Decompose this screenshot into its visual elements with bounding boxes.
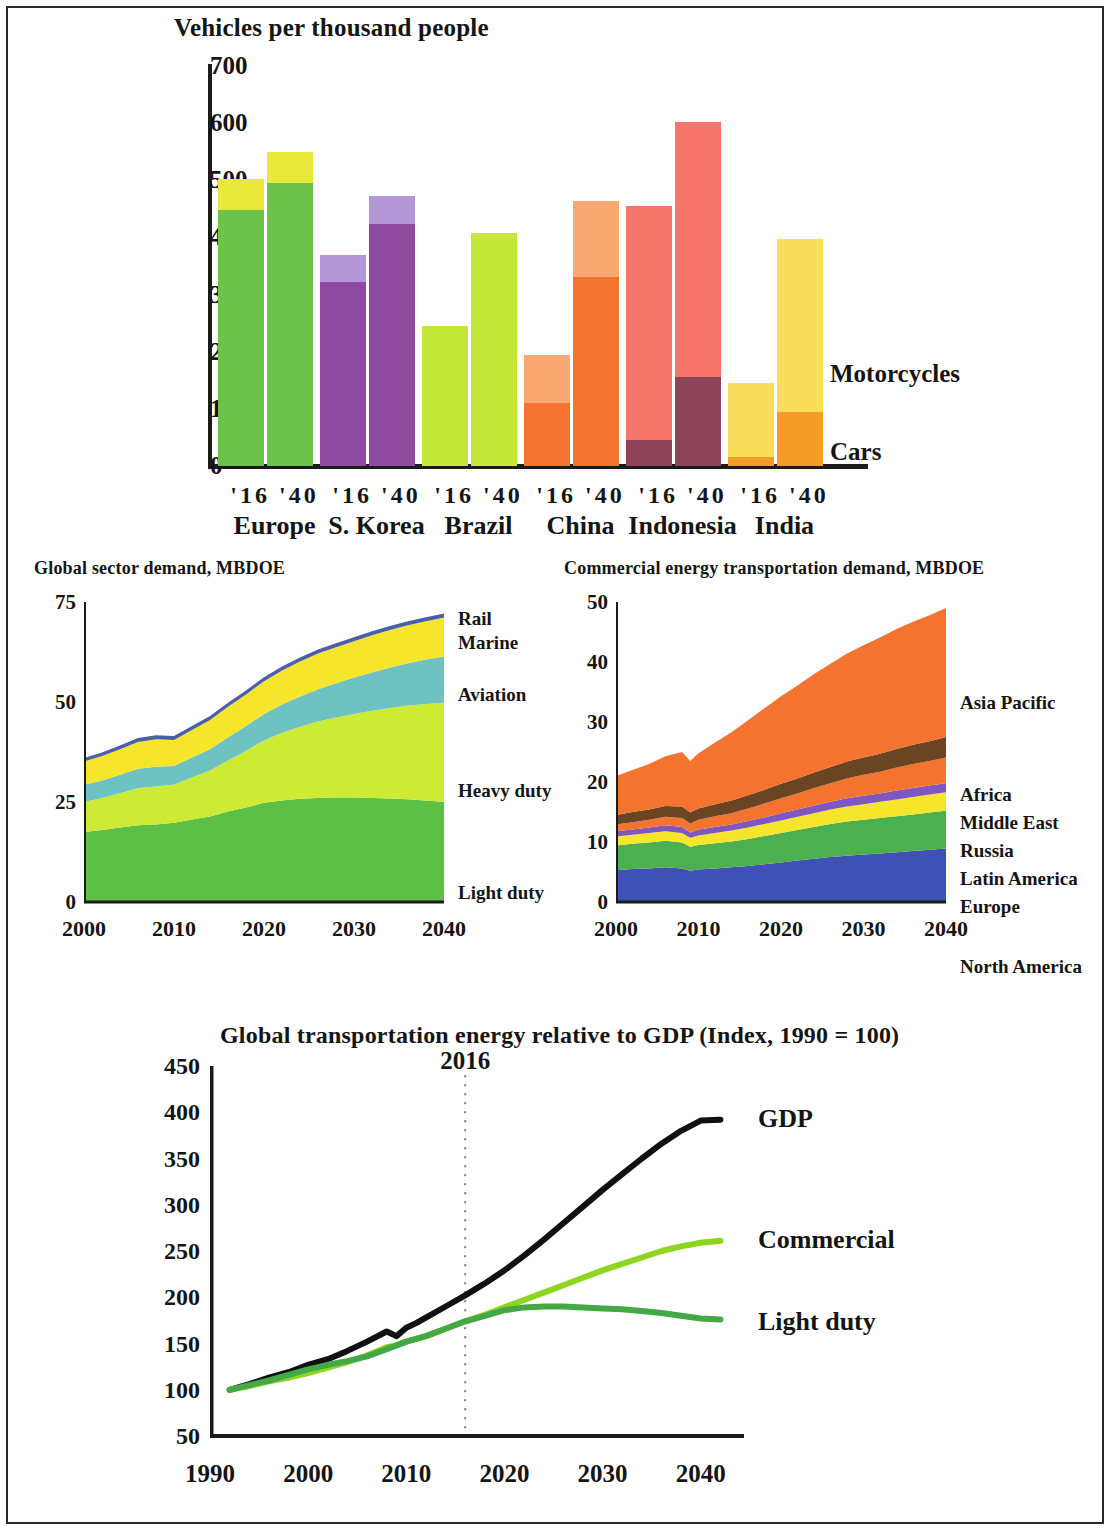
line-chart-title: Global transportation energy relative to… [220, 1022, 899, 1049]
bar-segment-motorcycles [524, 355, 570, 404]
bar-segment-cars [369, 224, 415, 466]
bar[interactable] [777, 239, 823, 466]
bar[interactable] [675, 122, 721, 466]
area-x-tick: 2020 [759, 916, 803, 942]
x-category-brazil: '16 '40Brazil [424, 482, 533, 541]
x-category-india: '16 '40India [730, 482, 839, 541]
line-y-tick: 250 [130, 1238, 200, 1265]
x-category-china: '16 '40China [526, 482, 635, 541]
bar-segment-motorcycles [675, 122, 721, 377]
bar-segment-cars [524, 403, 570, 466]
bar[interactable] [626, 206, 672, 466]
area-y-tick: 50 [568, 590, 608, 615]
legend-item-aviation: Aviation [458, 684, 526, 706]
bar[interactable] [573, 201, 619, 466]
x-year-labels: '16 '40 [628, 482, 737, 509]
legend-item-europe: Europe [960, 896, 1020, 918]
bar-segment-cars [675, 377, 721, 466]
bar-segment-motorcycles [626, 206, 672, 440]
area-x-tick: 2040 [422, 916, 466, 942]
bar[interactable] [524, 355, 570, 466]
bar-group-skorea [320, 66, 415, 466]
area-y-tick: 50 [28, 690, 76, 715]
line-y-tick: 50 [130, 1423, 200, 1450]
bar[interactable] [471, 233, 517, 466]
legend-item-heavy-duty: Heavy duty [458, 780, 551, 802]
vehicles-bar-chart: Vehicles per thousand people 01002003004… [150, 14, 1000, 554]
legend-item-motorcycles: Motorcycles [830, 360, 960, 388]
global-sector-demand-chart: Global sector demand, MBDOE 0255075 2000… [18, 558, 558, 988]
line-y-tick: 200 [130, 1284, 200, 1311]
bar-group-indonesia [626, 66, 721, 466]
area-x-tick: 2010 [152, 916, 196, 942]
bar-segment-motorcycles [267, 152, 313, 183]
x-year-labels: '16 '40 [526, 482, 635, 509]
area1-title: Global sector demand, MBDOE [34, 558, 285, 579]
line-x-tick: 2040 [676, 1460, 726, 1488]
commercial-energy-transportation-demand-chart: Commercial energy transportation demand,… [560, 558, 1108, 988]
x-category-indonesia: '16 '40Indonesia [628, 482, 737, 541]
area-y-tick: 0 [568, 890, 608, 915]
bar-segment-cars [267, 183, 313, 466]
area-x-tick: 2020 [242, 916, 286, 942]
legend-item-gdp: GDP [758, 1104, 813, 1134]
x-region-label: S. Korea [322, 511, 431, 541]
bar-chart-plot-area: 0100200300400500600700 [210, 66, 840, 466]
area1-plot-area [84, 602, 444, 902]
line-x-tick: 2020 [479, 1460, 529, 1488]
line-y-tick: 450 [130, 1053, 200, 1080]
line-svg [210, 1066, 746, 1442]
bar-segment-motorcycles [320, 255, 366, 282]
x-category-europe: '16 '40Europe [220, 482, 329, 541]
line-x-tick: 2010 [381, 1460, 431, 1488]
bar-group-india [728, 66, 823, 466]
area-svg [616, 602, 946, 906]
x-region-label: Indonesia [628, 511, 737, 541]
legend-item-light-duty: Light duty [458, 882, 544, 904]
area2-plot-area [616, 602, 946, 902]
bar-segment-motorcycles [777, 239, 823, 412]
x-year-labels: '16 '40 [730, 482, 839, 509]
bar-segment-cars [320, 282, 366, 466]
legend-item-commercial: Commercial [758, 1225, 895, 1255]
year-2016-annotation: 2016 [440, 1047, 490, 1075]
legend-item-asia-pacific: Asia Pacific [960, 692, 1056, 714]
bar-group-brazil [422, 66, 517, 466]
legend-item-light-duty: Light duty [758, 1307, 876, 1337]
area-x-tick: 2030 [332, 916, 376, 942]
legend-item-rail: Rail [458, 608, 492, 630]
bar-segment-cars [471, 233, 517, 466]
line-x-tick: 2030 [578, 1460, 628, 1488]
bar-segment-motorcycles [573, 201, 619, 277]
bar-segment-motorcycles [369, 196, 415, 223]
bar[interactable] [369, 196, 415, 466]
legend-item-cars: Cars [830, 438, 881, 466]
bar[interactable] [728, 383, 774, 466]
x-year-labels: '16 '40 [220, 482, 329, 509]
line-y-tick: 400 [130, 1099, 200, 1126]
area-y-tick: 25 [28, 790, 76, 815]
x-category-skorea: '16 '40S. Korea [322, 482, 431, 541]
x-year-labels: '16 '40 [322, 482, 431, 509]
x-region-label: India [730, 511, 839, 541]
bar[interactable] [320, 255, 366, 466]
bar-chart-title: Vehicles per thousand people [174, 14, 489, 42]
area-y-tick: 75 [28, 590, 76, 615]
x-region-label: Europe [220, 511, 329, 541]
area-y-tick: 30 [568, 710, 608, 735]
area-x-tick: 2000 [62, 916, 106, 942]
x-region-label: China [526, 511, 635, 541]
bar-segment-motorcycles [218, 179, 264, 210]
line-y-tick: 100 [130, 1376, 200, 1403]
legend-item-middle-east: Middle East [960, 812, 1059, 834]
bar[interactable] [267, 152, 313, 466]
line-y-tick: 300 [130, 1191, 200, 1218]
legend-item-north-america: North America [960, 956, 1082, 978]
area2-title: Commercial energy transportation demand,… [564, 558, 984, 579]
x-year-labels: '16 '40 [424, 482, 533, 509]
bar-segment-cars [422, 326, 468, 466]
bar[interactable] [422, 326, 468, 466]
bar[interactable] [218, 179, 264, 466]
transport-energy-gdp-line-chart: Global transportation energy relative to… [120, 1022, 1080, 1512]
legend-item-latin-america: Latin America [960, 868, 1078, 890]
